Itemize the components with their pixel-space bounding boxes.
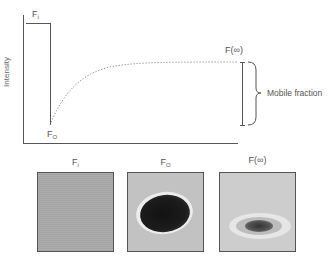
panel-prebleach-image [37,172,114,252]
noise-texture [38,173,113,251]
f-initial-main: F [32,9,38,19]
mobile-fraction-brace [248,62,261,125]
panel-1-label-main: F [72,157,78,167]
panel-postbleach-image [127,172,204,252]
panel-2-label-sub: O [166,162,171,168]
recovery-spot [245,220,273,232]
panel-recovered-image [219,172,296,252]
panel-3-label: F(∞) [219,155,296,165]
panel-3-label-main: F(∞) [249,155,267,165]
panel-1-label-sub: i [78,162,79,168]
f-initial-sub: i [38,14,39,20]
frap-recovery-graph [0,0,331,150]
mobile-fraction-label: Mobile fraction [267,88,322,98]
recovery-curve [50,62,238,125]
y-axis-label: Intensity [2,57,11,87]
f-zero-sub: O [53,134,58,140]
f-initial-label: Fi [32,9,39,19]
f-zero-label: FO [47,129,57,139]
f-zero-main: F [47,129,53,139]
panel-2-label: FO [127,157,204,167]
f-infinity-label: F(∞) [225,45,243,55]
panel-1-label: Fi [37,157,114,167]
